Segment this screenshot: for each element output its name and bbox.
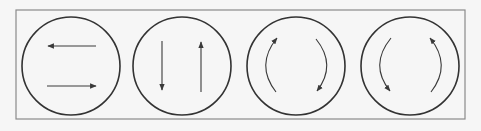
panel-2 [133, 17, 231, 115]
diagram-frame [16, 10, 465, 119]
circle-outline [361, 17, 459, 115]
circle-outline [133, 17, 231, 115]
panel-3 [247, 17, 345, 115]
counter-clockwise-arrow-icon [430, 38, 441, 92]
rotation-diagram [0, 0, 481, 131]
panels-group [22, 17, 459, 115]
circle-outline [22, 17, 120, 115]
clockwise-arrow-icon [266, 38, 277, 92]
panel-1 [22, 17, 120, 115]
counter-clockwise-arrow-icon [380, 38, 391, 91]
circle-outline [247, 17, 345, 115]
clockwise-arrow-icon [316, 39, 327, 91]
panel-4 [361, 17, 459, 115]
